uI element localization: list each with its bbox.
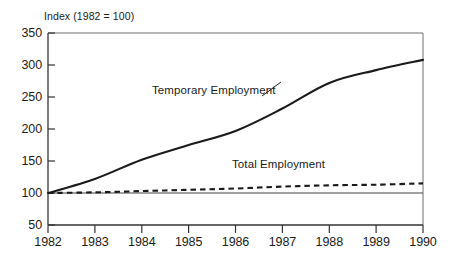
x-axis-ticks bbox=[48, 225, 423, 233]
y-tick-150: 150 bbox=[8, 154, 42, 168]
y-tick-50: 50 bbox=[8, 218, 42, 232]
series-label-total-employment: Total Employment bbox=[232, 158, 325, 170]
x-tick-1982: 1982 bbox=[25, 235, 71, 249]
series-line-total-employment bbox=[48, 183, 423, 193]
y-tick-250: 250 bbox=[8, 90, 42, 104]
series-line-temporary-employment bbox=[48, 60, 423, 193]
y-tick-100: 100 bbox=[8, 186, 42, 200]
x-tick-1989: 1989 bbox=[353, 235, 399, 249]
x-tick-1988: 1988 bbox=[306, 235, 352, 249]
x-tick-1986: 1986 bbox=[213, 235, 259, 249]
y-tick-200: 200 bbox=[8, 122, 42, 136]
x-tick-1985: 1985 bbox=[166, 235, 212, 249]
y-tick-300: 300 bbox=[8, 58, 42, 72]
x-tick-1983: 1983 bbox=[72, 235, 118, 249]
y-axis-ticks bbox=[48, 33, 55, 225]
axis-frame bbox=[48, 33, 423, 225]
chart-figure: Index (1982 = 100) bbox=[0, 0, 452, 255]
x-tick-1990: 1990 bbox=[400, 235, 446, 249]
x-tick-1987: 1987 bbox=[259, 235, 305, 249]
series-label-temporary-employment: Temporary Employment bbox=[152, 84, 275, 96]
x-tick-1984: 1984 bbox=[119, 235, 165, 249]
y-tick-350: 350 bbox=[8, 26, 42, 40]
plot-area bbox=[0, 0, 452, 255]
